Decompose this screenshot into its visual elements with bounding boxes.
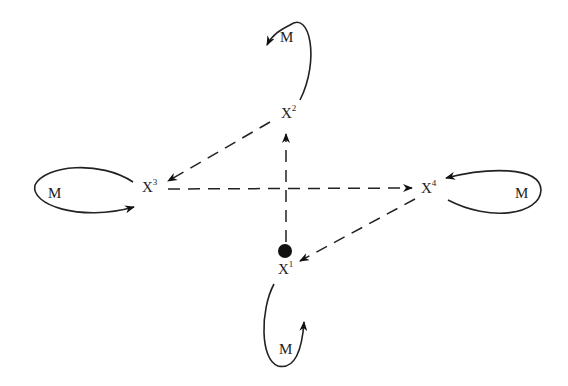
loop-x1-label: M: [279, 342, 292, 357]
edge-x4-x1: [300, 199, 415, 261]
x1-marker-dot: [278, 244, 292, 258]
diagram-canvas: [0, 0, 568, 386]
node-x2-label: X2: [281, 106, 296, 121]
node-x4-label: X4: [421, 181, 436, 196]
loop-x4-label: M: [515, 186, 528, 201]
node-x1-label: X1: [278, 262, 293, 277]
node-x3-label: X3: [142, 180, 157, 195]
loop-x3-label: M: [48, 186, 61, 201]
edge-x2-x3: [168, 122, 270, 181]
edge-x3-x4: [168, 188, 412, 189]
loop-x2-label: M: [280, 30, 293, 45]
